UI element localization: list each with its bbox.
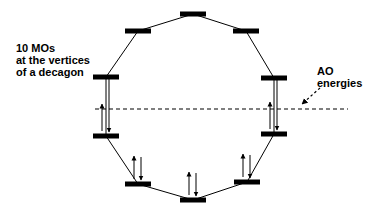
mo-level-bar-mo-6 (180, 12, 206, 17)
mo-level-bar-mo-1 (180, 198, 206, 203)
mo-level-bar-mo-2b (234, 180, 260, 185)
decagon-edges (106, 14, 274, 200)
mo-level-bar-mo-4b (261, 76, 287, 81)
decagon-mo-diagram (0, 0, 372, 216)
decagon-edge (193, 14, 246, 31)
decagon-edge (246, 31, 274, 78)
mo-level-bar-mo-2a (125, 182, 151, 187)
decagon-edge (247, 134, 274, 182)
mo-level-bar-mo-3a (93, 134, 119, 139)
ao-pointer-arrow (302, 88, 320, 104)
mo-level-bar-mo-3b (261, 132, 287, 137)
mo-level-bar-mo-5b (233, 29, 259, 34)
mo-level-bar-mo-5a (125, 29, 151, 34)
decagon-edge (106, 136, 138, 184)
electron-pairs (102, 76, 277, 196)
decagon-edge (193, 182, 247, 200)
mo-level-bar-mo-4a (93, 75, 119, 80)
mo-levels (93, 12, 287, 203)
decagon-edge (138, 14, 193, 31)
decagon-edge (106, 31, 138, 77)
